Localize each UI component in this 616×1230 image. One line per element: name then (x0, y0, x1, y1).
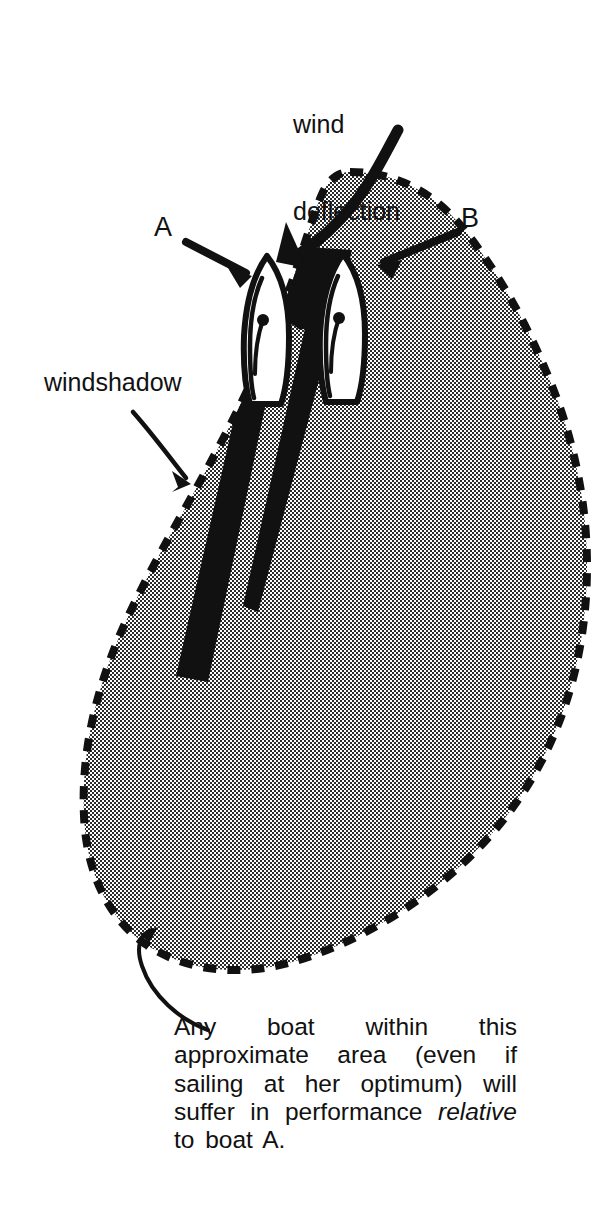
wind-deflection-label-line2: deflection (293, 197, 400, 226)
boat-a-label: A (154, 212, 172, 243)
figure-canvas: wind deflection windshadow A B Any boat … (0, 0, 616, 1230)
wind-deflection-label: wind deflection (293, 52, 400, 284)
figure-caption: Any boat within this approximate area (e… (174, 1013, 517, 1154)
boat-a-leader-arrow (186, 242, 252, 288)
windshadow-leader-arrow (133, 412, 191, 492)
windshadow-label: windshadow (44, 368, 182, 397)
caption-emphasis: relative (438, 1098, 517, 1125)
caption-part2: to boat A. (174, 1126, 285, 1153)
boat-b-label: B (461, 203, 479, 234)
boat-a (244, 256, 289, 404)
wind-deflection-label-line1: wind (293, 110, 400, 139)
